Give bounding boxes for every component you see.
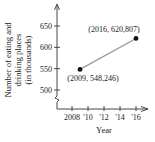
y-tick-label: 600	[40, 43, 52, 52]
x-tick-label: '12	[99, 113, 108, 122]
x-tick-label: '14	[115, 113, 124, 122]
series: (2009, 548,246)(2016, 620,807)	[67, 25, 140, 83]
data-point	[78, 67, 83, 72]
x-tick-label: '16	[131, 113, 140, 122]
x-ticks: 2008'10'12'14'16	[64, 106, 141, 122]
x-axis-title: Year	[96, 125, 112, 135]
data-label: (2016, 620,807)	[88, 25, 140, 34]
y-axis-title: Number of eating and drinking places (in…	[3, 22, 33, 98]
data-point	[134, 36, 139, 41]
y-tick-label: 650	[40, 22, 52, 31]
x-tick-label: 2008	[64, 113, 80, 122]
y-tick-label: 500	[40, 86, 52, 95]
y-axis-title-line-1: Number of eating and	[3, 22, 13, 98]
series-line	[80, 38, 136, 69]
y-axis-title-line-2: drinking places	[13, 33, 23, 86]
y-tick-label: 550	[40, 65, 52, 74]
line-chart: 500550600650 2008'10'12'14'16 (2009, 548…	[0, 0, 155, 142]
y-axis-title-line-3: (in thousands)	[23, 35, 33, 84]
data-label: (2009, 548,246)	[67, 74, 119, 83]
x-tick-label: '10	[83, 113, 92, 122]
